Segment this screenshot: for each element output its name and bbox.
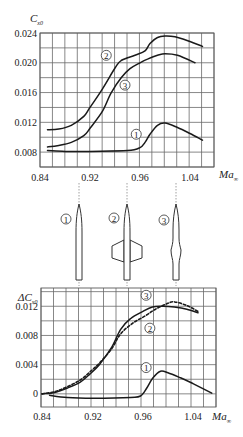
x-tick-label: 0.92 <box>84 411 102 422</box>
y-tick-label: 0.016 <box>15 87 38 98</box>
series-line-3 <box>48 54 196 147</box>
y-tick-label: 0.004 <box>16 359 39 370</box>
config-2-label: 2 <box>109 213 119 224</box>
svg-text:3: 3 <box>162 216 167 226</box>
delta-cx0-series-labels: 123 <box>141 290 155 373</box>
delta-cx0-y-tick-labels: 00.0040.0080.012 <box>16 301 39 400</box>
x-tick-label: 0.96 <box>131 172 149 183</box>
y-tick-label: 0.012 <box>15 117 38 128</box>
delta-cx0-chart: 00.0040.0080.012 0.840.920.961.04 ΔCx0 M… <box>16 288 232 424</box>
configuration-2-body-with-wing: 2 <box>109 183 142 286</box>
series-label-2: 2 <box>101 50 111 61</box>
cx0-chart: 0.0080.0120.0160.0200.024 0.840.920.961.… <box>15 12 239 183</box>
cx0-series-labels: 123 <box>101 50 141 139</box>
y-tick-label: 0.008 <box>15 147 38 158</box>
x-tick-label: 1.04 <box>184 411 202 422</box>
y-tick-label: 0.020 <box>15 57 38 68</box>
x-tick-label: 0.84 <box>31 172 49 183</box>
x-tick-label: 0.84 <box>33 411 51 422</box>
series-label-text: 3 <box>144 291 149 301</box>
series-label-text: 1 <box>134 130 139 140</box>
x-tick-label: 1.04 <box>181 172 199 183</box>
series-label-text: 3 <box>123 81 128 91</box>
svg-text:2: 2 <box>112 214 117 224</box>
series-label-text: 2 <box>104 51 109 61</box>
series-label-text: 1 <box>144 363 149 373</box>
delta-cx0-grid <box>41 288 216 407</box>
cx0-x-axis-title: Ma∞ <box>218 168 239 182</box>
series-label-text: 2 <box>148 324 153 334</box>
cx0-x-tick-labels: 0.840.920.961.04 <box>31 172 199 183</box>
series-label-3: 3 <box>120 80 130 91</box>
series-label-1: 1 <box>131 129 141 140</box>
cx0-series <box>48 36 203 151</box>
configuration-3-area-ruled-body: 3 <box>159 183 181 286</box>
series-label-3: 3 <box>141 290 151 301</box>
cx0-y-axis-title: Cx0 <box>30 12 43 26</box>
cx0-grid <box>40 33 214 167</box>
series-line-2 <box>42 302 198 394</box>
x-tick-label: 0.96 <box>134 411 152 422</box>
delta-cx0-x-axis-title: Ma∞ <box>211 410 232 424</box>
config-2-body-outline <box>124 204 130 280</box>
config-3-body-outline <box>171 204 181 280</box>
y-tick-label: 0.008 <box>16 330 39 341</box>
config-1-body-outline <box>76 204 82 280</box>
cx0-y-tick-labels: 0.0080.0120.0160.0200.024 <box>15 28 38 158</box>
figure: 0.0080.0120.0160.0200.024 0.840.920.961.… <box>0 0 243 437</box>
series-label-2: 2 <box>145 323 155 334</box>
configuration-sketches: 1 2 3 <box>61 183 181 286</box>
config-1-label: 1 <box>61 214 71 225</box>
y-tick-label: 0 <box>33 388 38 399</box>
x-tick-label: 0.92 <box>81 172 99 183</box>
y-tick-label: 0.024 <box>15 28 38 39</box>
series-label-1: 1 <box>141 363 151 374</box>
svg-text:1: 1 <box>64 215 69 225</box>
delta-cx0-y-axis-title: ΔCx0 <box>17 291 37 305</box>
configuration-1-slender-body: 1 <box>61 183 82 286</box>
delta-cx0-x-tick-labels: 0.840.920.961.04 <box>33 411 202 422</box>
config-3-label: 3 <box>159 215 169 226</box>
